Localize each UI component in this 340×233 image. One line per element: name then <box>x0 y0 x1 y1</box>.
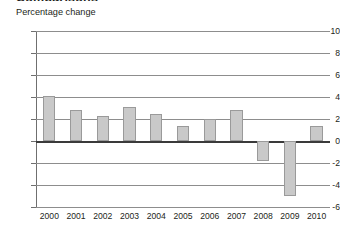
page-title: Comparisons <box>16 0 98 1</box>
bar <box>230 110 242 141</box>
bar <box>257 141 269 161</box>
gridline <box>36 207 330 208</box>
x-axis-tick-label: 2007 <box>223 212 250 221</box>
x-axis-tick-label: 2008 <box>250 212 277 221</box>
x-axis-tick-label: 2003 <box>116 212 143 221</box>
x-axis-tick-label: 2002 <box>89 212 116 221</box>
bar <box>150 114 162 142</box>
y-tick <box>31 207 36 208</box>
bar <box>123 107 135 141</box>
bar <box>284 141 296 196</box>
x-axis-tick-label: 2004 <box>143 212 170 221</box>
bar <box>70 110 82 141</box>
bar <box>43 96 55 141</box>
bar <box>310 126 322 141</box>
x-axis-tick-label: 2005 <box>170 212 197 221</box>
x-axis-tick-label: 2001 <box>63 212 90 221</box>
plot-area <box>36 31 330 207</box>
x-axis-tick-label: 2006 <box>196 212 223 221</box>
bar <box>177 126 189 141</box>
x-axis-tick-label: 2009 <box>277 212 304 221</box>
x-axis-tick-label: 2010 <box>303 212 330 221</box>
bar <box>204 119 216 141</box>
x-axis-tick-label: 2000 <box>36 212 63 221</box>
bar <box>97 116 109 141</box>
chart-subtitle: Percentage change <box>16 7 96 17</box>
bar-chart: Comparisons Percentage change 1086420-2-… <box>0 0 340 233</box>
